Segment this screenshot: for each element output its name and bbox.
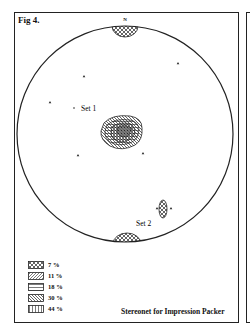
diagonal-back-swatch-icon — [28, 294, 44, 302]
vertical-swatch-icon — [28, 305, 44, 313]
set2-cluster — [159, 200, 167, 218]
figure-caption: Stereonet for Impression Packer — [121, 307, 225, 316]
legend: 7 % 11 % 18 % 30 % 44 % — [28, 259, 63, 314]
south-pole-cluster — [113, 233, 141, 255]
diagonal-forward-swatch-icon — [28, 272, 44, 280]
crosshatch-swatch-icon — [28, 261, 44, 269]
set1-cluster — [101, 116, 142, 149]
legend-item: 7 % — [28, 259, 63, 270]
north-label: N — [123, 17, 127, 22]
set1-label: Set 1 — [81, 104, 96, 113]
horizontal-swatch-icon — [28, 283, 44, 291]
legend-item: 11 % — [28, 270, 63, 281]
legend-item: 30 % — [28, 292, 63, 303]
set2-label: Set 2 — [136, 219, 151, 228]
legend-item: 44 % — [28, 303, 63, 314]
legend-item: 18 % — [28, 281, 63, 292]
